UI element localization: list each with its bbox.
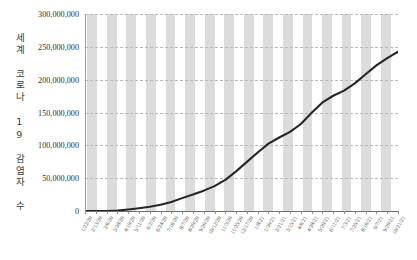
x-axis-tick-mark bbox=[333, 211, 334, 214]
x-axis-tick-mark bbox=[107, 211, 108, 214]
x-axis-tick-mark bbox=[182, 211, 183, 214]
x-axis-tick-mark bbox=[161, 211, 162, 214]
y-axis-tick-label: 250,000,000 bbox=[38, 42, 79, 51]
x-axis-tick-mark bbox=[344, 211, 345, 214]
y-axis-tick-label: 300,000,000 bbox=[38, 10, 79, 19]
x-axis-tick-mark bbox=[247, 211, 248, 214]
x-axis-tick-mark bbox=[85, 211, 86, 214]
x-axis-tick-mark bbox=[236, 211, 237, 214]
x-axis-tick-mark bbox=[204, 211, 205, 214]
x-axis-tick-mark bbox=[258, 211, 259, 214]
x-axis-tick-mark bbox=[301, 211, 302, 214]
x-axis-tick-labels: 1/22/202/13/203/6/203/28/204/19/205/11/2… bbox=[85, 211, 398, 260]
x-axis-tick-mark bbox=[96, 211, 97, 214]
x-axis-tick-mark bbox=[171, 211, 172, 214]
x-axis-tick-mark bbox=[376, 211, 377, 214]
y-axis-tick-label: 0 bbox=[75, 207, 79, 216]
y-axis-tick-label: 200,000,000 bbox=[38, 75, 79, 84]
x-axis-tick-mark bbox=[268, 211, 269, 214]
x-axis-tick-mark bbox=[139, 211, 140, 214]
x-axis-tick-mark bbox=[290, 211, 291, 214]
x-axis-tick-mark bbox=[387, 211, 388, 214]
x-axis-tick-mark bbox=[279, 211, 280, 214]
y-axis-tick-labels: 050,000,000100,000,000150,000,000200,000… bbox=[28, 14, 82, 211]
x-axis-tick-mark bbox=[117, 211, 118, 214]
y-axis-line bbox=[85, 14, 86, 211]
x-axis-tick-mark bbox=[322, 211, 323, 214]
plot-area bbox=[85, 14, 398, 211]
x-axis-tick-mark bbox=[150, 211, 151, 214]
x-axis-tick-mark bbox=[215, 211, 216, 214]
y-axis-tick-label: 100,000,000 bbox=[38, 141, 79, 150]
x-axis-tick-mark bbox=[312, 211, 313, 214]
data-series-layer bbox=[85, 14, 398, 211]
y-axis-tick-label: 150,000,000 bbox=[38, 108, 79, 117]
y-axis-title-text: 세계 코로나 19 감염자 수 bbox=[14, 33, 24, 213]
covid-cumulative-cases-chart: 세계 코로나 19 감염자 수 050,000,000100,000,00015… bbox=[0, 0, 417, 260]
line-series-path bbox=[85, 52, 398, 211]
x-axis-tick-mark bbox=[128, 211, 129, 214]
line-series-svg bbox=[85, 14, 398, 211]
x-axis-tick-mark bbox=[366, 211, 367, 214]
x-axis-tick-mark bbox=[355, 211, 356, 214]
x-axis-tick-mark bbox=[225, 211, 226, 214]
x-axis-tick-mark bbox=[193, 211, 194, 214]
y-axis-tick-label: 50,000,000 bbox=[42, 174, 79, 183]
x-axis-tick-mark bbox=[398, 211, 399, 214]
